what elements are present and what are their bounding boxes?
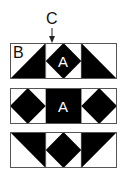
row-3-blocks — [10, 132, 117, 168]
label-a-row2: A — [58, 99, 68, 114]
quilt-row-3 — [10, 132, 117, 168]
label-a-row1: A — [58, 54, 68, 69]
label-b: B — [13, 45, 24, 61]
